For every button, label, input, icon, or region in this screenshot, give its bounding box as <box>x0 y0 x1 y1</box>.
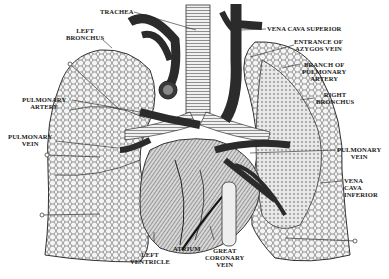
label-text: LEFT <box>130 251 170 258</box>
label-text: VEIN <box>8 140 52 147</box>
label-text: GREAT <box>205 247 244 254</box>
label-text: PULMONARY <box>337 146 381 153</box>
label-text: CAVA <box>344 184 378 191</box>
label-text: VEIN <box>337 153 381 160</box>
label-pulmonary-vein-left: PULMONARY VEIN <box>8 133 52 147</box>
label-text: PULMONARY <box>22 96 66 103</box>
label-left-ventricle: LEFT VENTRICLE <box>130 251 170 265</box>
label-text: PULMONARY <box>302 68 346 75</box>
label-text: RIGHT <box>316 91 354 98</box>
label-text: INFERIOR <box>344 191 378 198</box>
label-text: VEIN <box>205 261 244 268</box>
label-text: BRONCHUS <box>66 34 104 41</box>
label-text: ARTERY <box>22 103 66 110</box>
heart <box>140 139 260 254</box>
label-pulmonary-artery: PULMONARY ARTERY <box>22 96 66 110</box>
label-text: VENTRICLE <box>130 258 170 265</box>
label-text: CORONARY <box>205 254 244 261</box>
label-left-bronchus: LEFT BRONCHUS <box>66 27 104 41</box>
label-atrium: ATRIUM <box>173 245 201 252</box>
label-text: TRACHEA <box>100 8 134 15</box>
anatomy-figure: TRACHEA LEFT BRONCHUS PULMONARY ARTERY P… <box>0 0 389 279</box>
label-text: BRONCHUS <box>316 98 354 105</box>
label-text: AZYGOS VEIN <box>294 45 343 52</box>
label-azygos-vein: ENTRANCE OF AZYGOS VEIN <box>294 38 343 52</box>
label-trachea: TRACHEA <box>100 8 134 15</box>
label-text: VENA CAVA SUPERIOR <box>267 25 341 32</box>
label-text: BRANCH OF <box>302 61 346 68</box>
label-text: ENTRANCE OF <box>294 38 343 45</box>
label-vena-cava-inferior: VENA CAVA INFERIOR <box>344 177 378 199</box>
label-branch-pulmonary-artery: BRANCH OF PULMONARY ARTERY <box>302 61 346 83</box>
label-right-bronchus: RIGHT BRONCHUS <box>316 91 354 105</box>
label-vena-cava-superior: VENA CAVA SUPERIOR <box>267 25 341 32</box>
trachea <box>186 5 210 115</box>
label-text: PULMONARY <box>8 133 52 140</box>
label-text: VENA <box>344 177 378 184</box>
label-text: ATRIUM <box>173 245 201 252</box>
label-text: LEFT <box>66 27 104 34</box>
label-pulmonary-vein-right: PULMONARY VEIN <box>337 146 381 160</box>
vena-cava-inferior <box>222 182 236 246</box>
label-great-coronary-vein: GREAT CORONARY VEIN <box>205 247 244 269</box>
label-text: ARTERY <box>302 75 346 82</box>
